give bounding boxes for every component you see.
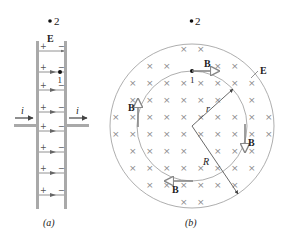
svg-text:×: × <box>197 78 205 88</box>
svg-text:×: × <box>146 95 154 105</box>
svg-text:+: + <box>40 186 47 195</box>
point-2-dot <box>48 19 52 23</box>
svg-text:×: × <box>146 146 154 156</box>
b-label-top: B <box>204 58 211 69</box>
svg-text:×: × <box>163 61 171 71</box>
svg-text:×: × <box>163 163 171 173</box>
radius-R-label: R <box>202 156 209 167</box>
svg-text:×: × <box>214 112 222 122</box>
svg-text:×: × <box>180 95 188 105</box>
svg-text:×: × <box>180 44 188 54</box>
field-line: + − <box>39 143 65 154</box>
svg-text:×: × <box>214 129 222 139</box>
svg-text:+: + <box>40 81 47 90</box>
svg-text:×: × <box>180 163 188 173</box>
svg-text:×: × <box>197 180 205 190</box>
left-plate <box>36 41 39 209</box>
svg-text:×: × <box>180 78 188 88</box>
field-line: + − <box>39 122 65 133</box>
e-leader-line <box>251 71 258 78</box>
electric-field-label: E <box>47 33 54 44</box>
svg-text:×: × <box>180 146 188 156</box>
svg-text:×: × <box>197 95 205 105</box>
svg-text:×: × <box>180 112 188 122</box>
b-label-left: B <box>128 102 135 113</box>
svg-text:×: × <box>146 112 154 122</box>
svg-text:−: − <box>58 42 65 51</box>
svg-text:×: × <box>146 129 154 139</box>
figure-a: 2 E i i + − + − <box>14 15 89 229</box>
field-line: + − <box>39 164 65 175</box>
caption-b: (b) <box>185 217 197 229</box>
figure-b: 2 E ×× ×××× ×××××××× ××××××× ×××××××××× … <box>110 15 274 229</box>
svg-text:×: × <box>231 129 239 139</box>
svg-text:×: × <box>163 78 171 88</box>
svg-text:×: × <box>197 129 205 139</box>
svg-text:×: × <box>231 112 239 122</box>
caption-a: (a) <box>43 217 55 229</box>
b-label-right: B <box>248 137 255 148</box>
svg-text:+: + <box>40 103 47 112</box>
svg-text:×: × <box>248 95 256 105</box>
svg-text:×: × <box>265 112 273 122</box>
svg-text:×: × <box>265 129 273 139</box>
current-label-right: i <box>76 105 79 116</box>
b-label-bottom: B <box>172 184 179 195</box>
radius-r-label: r <box>206 103 210 114</box>
field-lines: + − + − + − + − <box>39 42 65 197</box>
svg-text:×: × <box>231 146 239 156</box>
svg-text:+: + <box>40 42 47 51</box>
svg-text:+: + <box>40 63 47 72</box>
svg-text:−: − <box>58 164 65 173</box>
svg-text:−: − <box>58 143 65 152</box>
svg-text:×: × <box>231 163 239 173</box>
svg-text:×: × <box>180 197 188 207</box>
svg-text:×: × <box>248 78 256 88</box>
svg-text:×: × <box>112 112 120 122</box>
svg-text:×: × <box>163 146 171 156</box>
svg-text:×: × <box>129 129 137 139</box>
current-label-left: i <box>21 105 24 116</box>
point-1-label: 1 <box>190 75 195 85</box>
svg-text:×: × <box>248 163 256 173</box>
point-2-label: 2 <box>54 15 60 27</box>
svg-text:×: × <box>112 129 120 139</box>
svg-text:×: × <box>231 78 239 88</box>
svg-text:−: − <box>58 122 65 131</box>
svg-text:×: × <box>129 78 137 88</box>
field-line: + − <box>39 103 65 114</box>
diagram-canvas: 2 E i i + − + − <box>0 0 284 238</box>
point-1-dot <box>58 70 62 74</box>
point-1-label: 1 <box>58 75 63 85</box>
svg-text:×: × <box>129 146 137 156</box>
svg-text:×: × <box>146 61 154 71</box>
svg-text:×: × <box>197 44 205 54</box>
svg-text:×: × <box>163 129 171 139</box>
svg-text:×: × <box>163 112 171 122</box>
right-wire <box>67 124 89 127</box>
svg-text:×: × <box>146 163 154 173</box>
svg-text:×: × <box>129 112 137 122</box>
svg-text:×: × <box>214 146 222 156</box>
svg-text:×: × <box>146 78 154 88</box>
point-2-label: 2 <box>195 15 201 27</box>
svg-text:×: × <box>214 61 222 71</box>
svg-text:×: × <box>129 163 137 173</box>
svg-text:×: × <box>248 112 256 122</box>
svg-text:+: + <box>40 164 47 173</box>
svg-text:×: × <box>163 95 171 105</box>
svg-text:−: − <box>58 103 65 112</box>
svg-text:+: + <box>40 122 47 131</box>
svg-text:×: × <box>214 180 222 190</box>
svg-text:×: × <box>214 78 222 88</box>
field-line: + − <box>39 186 65 197</box>
svg-text:×: × <box>146 180 154 190</box>
left-wire <box>14 124 36 127</box>
svg-text:×: × <box>180 129 188 139</box>
svg-text:−: − <box>58 186 65 195</box>
svg-text:+: + <box>40 143 47 152</box>
electric-field-label: E <box>260 65 267 76</box>
point-2-dot <box>190 19 194 23</box>
svg-text:×: × <box>231 61 239 71</box>
svg-text:×: × <box>197 197 205 207</box>
